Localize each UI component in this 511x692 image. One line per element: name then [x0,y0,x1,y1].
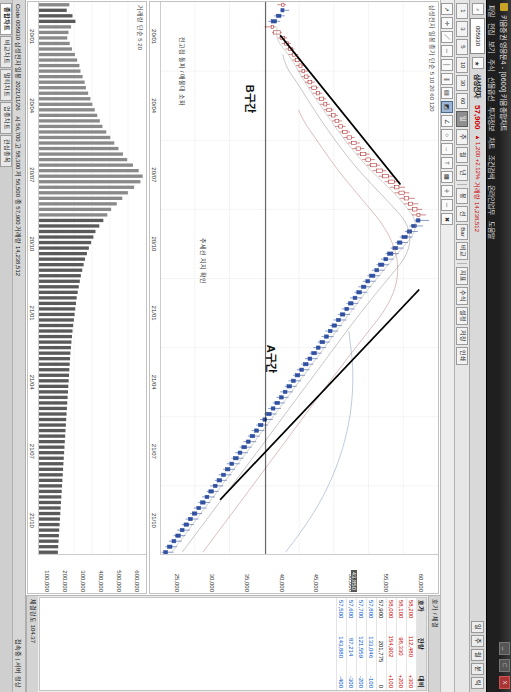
zoom-out-icon[interactable]: － [442,199,454,211]
order-book-row[interactable]: 58,000154,902+100 [386,598,396,690]
order-book-cell-qty: 133,046 [369,634,375,660]
tab-비교차트[interactable]: 비교차트 [0,36,12,68]
angle-icon[interactable]: ∠ [442,115,454,127]
price-chart-pane[interactable]: 삼성전자 일봉 종가 단순 5 10 20 60 120 60,00055,00… [149,1,439,594]
menu-item-9[interactable]: 도움말 [488,221,498,239]
chart-type-button-비교[interactable]: 비교 [456,242,468,260]
arrow-icon[interactable]: → [442,143,454,155]
main-body: 삼성전자 일봉 종가 단순 5 10 20 60 120 60,00055,00… [26,0,440,692]
annotation-trendline-support: 추세선 지지 확인 [199,238,208,283]
close-button[interactable]: X [499,676,510,689]
period-button-주[interactable]: 주 [456,129,468,145]
volume-y-tick-5: 100,000 [44,570,50,592]
volume-x-axis[interactable]: 20/0120/0420/0720/1021/0121/0421/0721/10 [28,2,39,555]
annotation-breakout: 전고점 돌파 / 매물대 소화 [178,37,187,105]
chart-type-button-봉[interactable]: 봉 [456,188,468,204]
extra-button-저장[interactable]: 저장 [456,327,468,345]
order-book-column-1: 잔량 [417,636,426,652]
menu-item-3[interactable]: 주식 [488,59,498,71]
minimize-button[interactable]: _ [499,642,510,655]
volume-x-tick-1: 20/04 [29,98,35,113]
order-book-row[interactable]: 58,200112,480+300 [406,598,416,690]
menu-item-4[interactable]: 선물옵션 [488,77,498,101]
erase-icon[interactable]: ✖ [442,213,454,225]
price-y-axis[interactable]: 60,00055,00050,00045,00040,00035,00030,0… [160,554,438,593]
period-button-년[interactable]: 년 [456,165,468,181]
search-icon[interactable]: ⌕ [472,3,484,15]
extra-button-수식[interactable]: 수식 [456,287,468,305]
period-button-group: 135103060일주월년 [456,3,468,181]
period-button-1[interactable]: 1 [456,3,468,19]
menu-item-7[interactable]: 조건검색 [488,155,498,179]
vertical-line-icon[interactable]: │ [442,59,454,71]
tab-종합차트[interactable]: 종합차트 [0,3,12,35]
quote-chip-주[interactable]: 주 [472,635,485,647]
tab-업종차트[interactable]: 업종차트 [0,102,12,134]
ellipse-icon[interactable]: ○ [442,129,454,141]
volume-chart-pane[interactable]: 거래량 단순 5 20 600,000500,000400,000300,000… [27,1,147,594]
quote-chip-분[interactable]: 분 [472,663,485,675]
stock-code-input[interactable] [471,18,486,54]
volume-pane-title: 거래량 단순 5 20 [136,5,145,50]
horizontal-line-icon[interactable]: ─ [442,45,454,57]
order-book-row[interactable]: 57,60087,214-300 [346,598,356,690]
window-title: 키움증권 영웅문4 - [0600] 키움종합차트 [500,15,510,131]
chart-type-button-선[interactable]: 선 [456,206,468,222]
pointer-icon[interactable]: ➚ [442,3,454,15]
menu-item-6[interactable]: 차트 [488,137,498,149]
period-button-60[interactable]: 60 [456,93,468,109]
order-book-row[interactable]: 57,700121,559-200 [356,598,366,690]
menu-item-8[interactable]: 온라인업무 [488,185,498,215]
order-book-table[interactable]: 호가잔량대비58,200112,480+30058,10098,330+2005… [39,597,427,691]
zoom-in-icon[interactable]: ＋ [442,185,454,197]
period-button-일[interactable]: 일 [456,111,468,127]
current-price-label: 57,900 [474,103,483,131]
annotation-a-section: A구간 [264,345,280,373]
period-button-월[interactable]: 월 [456,147,468,163]
parallel-line-icon[interactable]: ∥ [442,73,454,85]
volume-label: 거래량 14,238,512 [474,182,483,232]
chart-type-button-Bar[interactable]: Bar [456,224,468,240]
order-book-footer: 체결강도 104.37 [26,596,38,692]
menu-item-2[interactable]: 보기 [488,41,498,53]
order-book-row[interactable]: 57,500143,880-400 [336,598,346,690]
maximize-button[interactable]: □ [499,659,510,672]
text-icon[interactable]: T [442,157,454,169]
price-x-tick-7: 21/10 [151,513,157,528]
quote-chip-월[interactable]: 월 [472,649,485,661]
quote-chip-틱[interactable]: 틱 [472,677,485,689]
period-button-30[interactable]: 30 [456,75,468,91]
tab-멀티차트[interactable]: 멀티차트 [0,69,12,101]
order-book-row[interactable]: 57,800133,046-100 [366,598,376,690]
volume-y-axis[interactable]: 600,000500,000400,000300,000200,000100,0… [38,554,146,593]
channel-icon[interactable]: ◩ [442,101,454,113]
menu-item-1[interactable]: 편집 [488,23,498,35]
order-book-row[interactable]: 58,10098,330+200 [396,598,406,690]
menu-item-0[interactable]: 파일 [488,5,498,17]
order-book-cell-price: 58,200 [409,598,415,620]
footer-value: 104.37 [30,625,36,643]
price-x-axis[interactable]: 20/0120/0420/0720/1021/0121/0421/0721/10 [150,2,161,555]
chart-tab-strip: 종합차트비교차트멀티차트업종차트관심종목 [0,0,13,692]
menu-item-5[interactable]: 투자정보 [488,107,498,131]
extra-button-인쇄[interactable]: 인쇄 [456,347,468,365]
extra-button-지표[interactable]: 지표 [456,267,468,285]
status-left: Code 005930 삼성전자 일봉 2021/11/26 [15,4,24,111]
note-icon[interactable]: ▦ [442,171,454,183]
volume-plot-area[interactable] [38,2,146,555]
period-button-10[interactable]: 10 [456,57,468,73]
volume-x-tick-7: 21/10 [29,513,35,528]
order-book-cell-qty: 143,880 [339,634,345,660]
tab-관심종목[interactable]: 관심종목 [0,135,12,167]
fibonacci-icon[interactable]: ▤ [442,87,454,99]
period-button-5[interactable]: 5 [456,39,468,55]
status-middle: 시 56,700 고 58,300 저 56,500 종 57,900 거래량 … [15,116,24,276]
trendline-icon[interactable]: ／ [442,31,454,43]
favorite-star-icon[interactable]: ★ [472,57,484,69]
extra-button-설정[interactable]: 설정 [456,307,468,325]
quote-chip-일[interactable]: 일 [472,621,485,633]
period-button-3[interactable]: 3 [456,21,468,37]
crosshair-icon[interactable]: ✛ [442,17,454,29]
order-book-panel: 호가 / 체결 호가잔량대비58,200112,480+30058,10098,… [26,595,440,692]
order-book-row[interactable]: 57,900201,7750 [376,598,386,690]
